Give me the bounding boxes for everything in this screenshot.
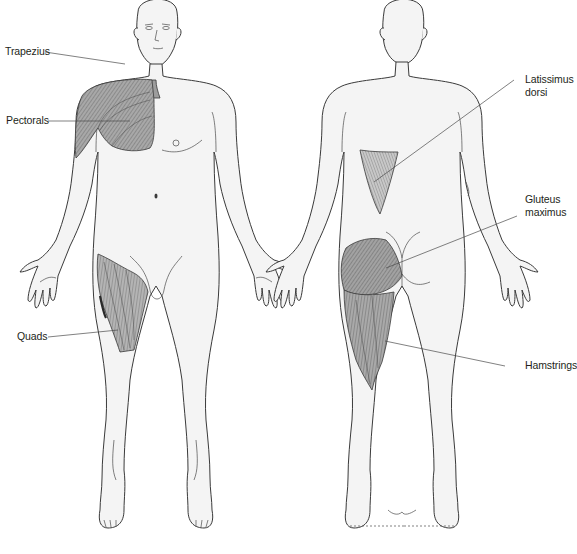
label-latissimus-dorsi: Latissimus dorsi	[525, 73, 574, 99]
label-hamstrings: Hamstrings	[525, 359, 577, 372]
label-quads: Quads	[17, 330, 47, 343]
front-head	[137, 0, 178, 66]
label-gluteus-line2: maximus	[525, 206, 566, 219]
label-gluteus-line1: Gluteus	[525, 193, 566, 206]
front-body	[20, 64, 292, 528]
label-latissimus-line1: Latissimus	[525, 73, 574, 86]
label-gluteus-maximus: Gluteus maximus	[525, 193, 566, 219]
front-figure	[20, 0, 292, 528]
label-latissimus-line2: dorsi	[525, 86, 574, 99]
trapezius-leader	[45, 52, 125, 64]
back-body	[266, 62, 538, 528]
label-pectorals: Pectorals	[6, 114, 49, 127]
back-figure	[266, 0, 538, 528]
label-trapezius: Trapezius	[5, 45, 50, 58]
back-head	[383, 0, 424, 64]
